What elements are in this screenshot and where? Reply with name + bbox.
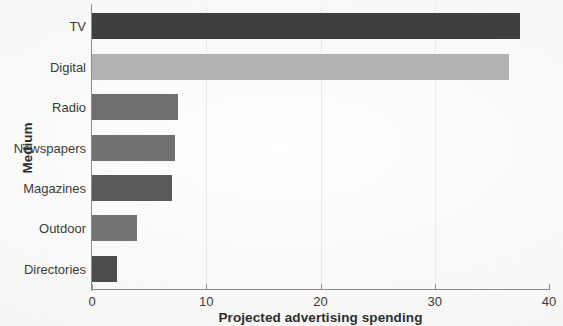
- x-tick-label-20: 20: [313, 294, 327, 309]
- x-tick-label-40: 40: [542, 294, 556, 309]
- bar-tv: [92, 13, 520, 39]
- x-tick-mark-30: [435, 284, 436, 290]
- x-tick-label-10: 10: [199, 294, 213, 309]
- y-category-label-magazines: Magazines: [23, 180, 86, 195]
- y-category-label-digital: Digital: [50, 59, 86, 74]
- bar-directories: [92, 256, 117, 282]
- y-axis-line: [91, 4, 92, 291]
- x-axis-title: Projected advertising spending: [92, 310, 549, 325]
- x-tick-label-0: 0: [88, 294, 95, 309]
- x-tick-mark-0: [92, 284, 93, 290]
- gridline-x-10: [206, 6, 208, 289]
- x-tick-mark-10: [206, 284, 207, 290]
- x-tick-label-30: 30: [428, 294, 442, 309]
- y-category-label-directories: Directories: [24, 261, 86, 276]
- plot-area: [92, 6, 549, 289]
- x-tick-mark-20: [321, 284, 322, 290]
- bar-radio: [92, 94, 178, 120]
- bar-chart: 010203040 TVDigitalRadioNewspapersMagazi…: [0, 0, 563, 326]
- bar-magazines: [92, 175, 172, 201]
- y-axis-title: Medium: [20, 122, 35, 173]
- y-category-label-radio: Radio: [52, 100, 86, 115]
- bar-newspapers: [92, 135, 175, 161]
- bar-digital: [92, 54, 509, 80]
- y-category-label-tv: TV: [69, 19, 86, 34]
- y-category-label-outdoor: Outdoor: [39, 221, 86, 236]
- gridline-x-30: [435, 6, 437, 289]
- x-tick-mark-40: [549, 284, 550, 290]
- bar-outdoor: [92, 215, 137, 241]
- gridline-x-20: [321, 6, 323, 289]
